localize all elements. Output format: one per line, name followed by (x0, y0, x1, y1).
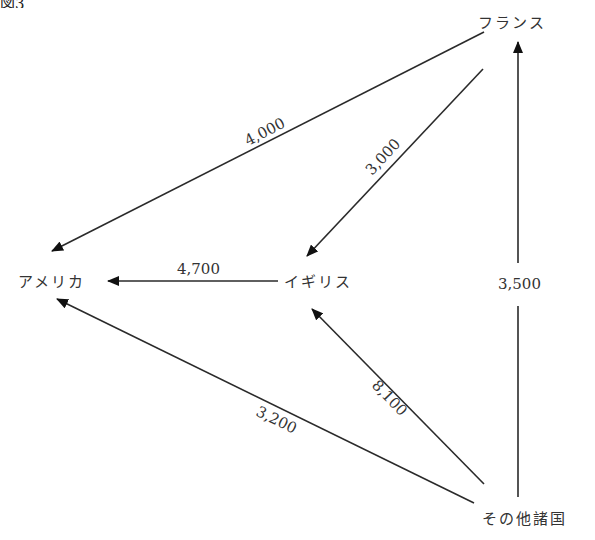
edge-value-8100: 8,100 (368, 376, 411, 419)
edge-value-3500: 3,500 (498, 275, 541, 293)
node-uk: イギリス (284, 273, 352, 291)
arrow-france-usa (52, 32, 484, 251)
edge-value-4000: 4,000 (242, 114, 288, 150)
edge-value-4700: 4,700 (177, 260, 220, 278)
edge-france-to-uk: 3,000 (307, 69, 483, 256)
arrow-others-usa (57, 299, 474, 503)
node-other-countries: その他諸国 (482, 510, 567, 528)
edge-value-3200: 3,200 (253, 402, 299, 437)
node-france: フランス (478, 14, 546, 32)
flow-diagram: 4,000 3,000 4,700 3,500 8,100 3,200 フランス… (0, 0, 595, 540)
edge-others-to-uk: 8,100 (312, 309, 484, 484)
edge-others-to-usa: 3,200 (57, 299, 474, 503)
node-usa: アメリカ (18, 273, 85, 291)
edge-value-3000: 3,000 (362, 135, 404, 179)
edge-uk-to-usa: 4,700 (108, 260, 278, 281)
edge-france-to-usa: 4,000 (52, 32, 484, 251)
arrow-france-uk (307, 69, 483, 256)
edge-others-to-france: 3,500 (498, 42, 541, 497)
